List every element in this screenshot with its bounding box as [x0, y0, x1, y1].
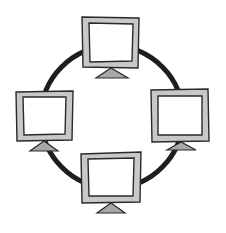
- monitor-right: [151, 89, 209, 150]
- monitor-stand: [97, 203, 125, 213]
- monitor-screen: [89, 23, 133, 62]
- monitor-left: [16, 91, 73, 151]
- monitor-bottom: [81, 152, 141, 213]
- monitor-screen: [88, 158, 134, 196]
- monitor-stand: [30, 141, 58, 151]
- monitor-screen: [23, 97, 66, 135]
- monitor-top: [82, 17, 139, 78]
- monitor-screen: [158, 96, 202, 135]
- ring-network-diagram: [0, 0, 226, 233]
- monitor-stand: [96, 68, 128, 78]
- monitor-stand: [167, 142, 196, 150]
